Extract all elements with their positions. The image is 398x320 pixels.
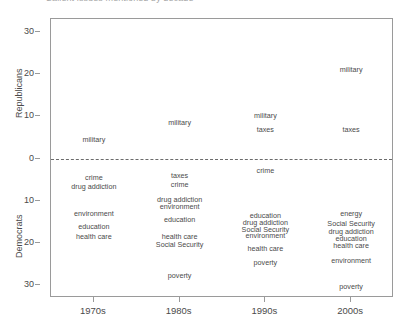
y-tick-mark [35, 200, 40, 201]
data-point-label: military [340, 67, 363, 74]
data-point-label: energy [340, 211, 362, 218]
data-point-label: environment [160, 203, 200, 210]
y-tick-mark [35, 73, 40, 74]
data-point-label: poverty [254, 259, 278, 266]
y-axis-title-democrats: Democrats [14, 214, 24, 258]
data-point-label: crime [257, 167, 275, 174]
data-point-label: crime [85, 174, 103, 181]
y-tick-label: 30 [24, 279, 34, 289]
y-tick-label: 0 [29, 153, 34, 163]
y-tick-mark [35, 284, 40, 285]
data-point-label: Social Security [156, 241, 204, 248]
x-tick-label: 1970s [80, 305, 106, 316]
x-tick-mark [93, 297, 94, 302]
y-tick-mark [35, 242, 40, 243]
chart-container: Salient issues mentioned by decade 30201… [0, 0, 398, 320]
zero-reference-line [51, 159, 392, 160]
data-point-label: drug addiction [71, 183, 116, 190]
y-tick-label: 10 [24, 195, 34, 205]
y-axis-title-republicans: Republicans [14, 69, 24, 119]
data-point-label: education [78, 224, 109, 231]
data-point-label: environment [331, 257, 371, 264]
data-point-label: education [164, 216, 195, 223]
y-axis: 3020100102030 [0, 0, 44, 320]
data-point-label: taxes [343, 126, 360, 133]
x-tick-mark [264, 297, 265, 302]
x-tick-mark [179, 297, 180, 302]
data-point-label: crime [171, 181, 189, 188]
data-point-label: military [168, 119, 191, 126]
data-point-label: environment [246, 232, 286, 239]
y-tick-label: 10 [24, 110, 34, 120]
data-point-label: environment [74, 210, 114, 217]
x-tick-label: 2000s [337, 305, 363, 316]
y-tick-label: 20 [24, 237, 34, 247]
y-tick-mark [35, 158, 40, 159]
data-point-label: taxes [171, 173, 188, 180]
data-point-label: health care [76, 233, 112, 240]
data-point-label: health care [333, 242, 369, 249]
x-tick-label: 1980s [166, 305, 192, 316]
data-point-label: military [254, 112, 277, 119]
data-point-label: health care [248, 245, 284, 252]
y-tick-label: 20 [24, 68, 34, 78]
chart-title: Salient issues mentioned by decade [46, 0, 194, 3]
y-tick-mark [35, 31, 40, 32]
data-point-label: taxes [257, 126, 274, 133]
y-tick-label: 30 [24, 26, 34, 36]
plot-panel: militarymilitarymilitarytaxesmilitarytax… [50, 18, 393, 297]
data-point-label: poverty [339, 283, 363, 290]
x-tick-label: 1990s [251, 305, 277, 316]
data-point-label: poverty [168, 273, 192, 280]
x-tick-mark [350, 297, 351, 302]
data-point-label: military [82, 137, 105, 144]
y-tick-mark [35, 115, 40, 116]
